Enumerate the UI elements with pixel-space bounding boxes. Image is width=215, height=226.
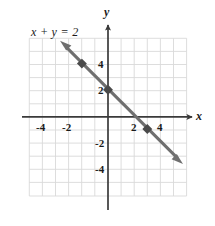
x-tick-label-neg4: -4	[36, 122, 45, 133]
x-axis-label: x	[196, 110, 202, 122]
y-tick-label-neg4: -4	[95, 164, 104, 175]
x-tick-label-neg2: -2	[62, 122, 71, 133]
y-tick-label-2: 2	[98, 85, 104, 96]
y-axis-label: y	[104, 6, 109, 18]
y-tick-label-neg2: -2	[95, 138, 104, 149]
coordinate-plane-figure: x + y = 2 y x -4 -2 2 4 4 2 -2 -4	[0, 0, 215, 226]
x-tick-label-2: 2	[131, 122, 137, 133]
y-tick-label-4: 4	[98, 59, 104, 70]
equation-label: x + y = 2	[31, 26, 79, 38]
x-tick-label-4: 4	[157, 122, 163, 133]
